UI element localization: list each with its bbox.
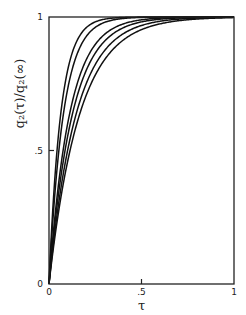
curve-line	[49, 18, 234, 284]
chart: 0.510.51 τ q₂(τ)/q₂(∞)	[0, 0, 246, 315]
axis-ticks	[49, 151, 142, 285]
x-tick-label: 0	[46, 287, 52, 297]
x-tick-label: 1	[231, 287, 237, 297]
curve-line	[49, 17, 234, 284]
y-tick-label: 1	[37, 12, 43, 22]
y-axis-label: q₂(τ)/q₂(∞)	[12, 59, 27, 129]
y-tick-label: 0	[37, 279, 43, 289]
data-curves	[49, 17, 234, 284]
y-tick-label: .5	[34, 146, 43, 156]
x-axis-label: τ	[138, 298, 145, 313]
curve-line	[49, 17, 234, 284]
x-tick-label: .5	[137, 287, 146, 297]
